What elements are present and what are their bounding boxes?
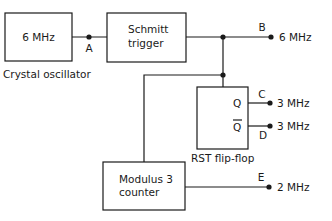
node-d-frequency: 3 MHz [277,120,310,132]
node-d-dot [267,123,272,128]
schmitt-trigger-block: Schmitt trigger [107,13,186,62]
frequency-divider-diagram: 6 MHz Crystal oscillator Schmitt trigger… [0,0,332,221]
node-b: B 6 MHz [258,21,312,43]
node-a-label: A [85,42,93,54]
node-d: D 3 MHz [259,120,310,141]
counter-label-line1: Modulus 3 [119,173,173,185]
node-b-frequency: 6 MHz [279,31,312,43]
node-e: E 2 MHz [258,171,310,193]
node-c-label: C [258,88,265,100]
rst-flipflop-block: Q Q RST flip-flop [191,87,255,164]
crystal-oscillator-block: 6 MHz Crystal oscillator [3,13,92,80]
node-b-dot [268,34,273,39]
crystal-oscillator-caption: Crystal oscillator [3,68,92,80]
modulus-counter-block: Modulus 3 counter [103,162,185,210]
qbar-output-label: Q [233,121,241,133]
junction-dot-middle [220,72,225,77]
node-e-dot [266,184,271,189]
node-b-label: B [258,21,265,33]
node-a-dot [86,34,91,39]
node-c: C 3 MHz [258,88,310,109]
node-e-frequency: 2 MHz [277,181,310,193]
node-c-dot [267,100,272,105]
node-c-frequency: 3 MHz [277,97,310,109]
counter-label-line2: counter [119,186,160,198]
schmitt-label-line1: Schmitt [128,23,168,35]
q-output-label: Q [233,97,241,109]
junction-dot-top [220,34,225,39]
schmitt-label-line2: trigger [128,37,164,49]
rst-flipflop-caption: RST flip-flop [191,152,255,164]
crystal-frequency-label: 6 MHz [22,31,55,43]
node-d-label: D [259,129,267,141]
node-e-label: E [258,171,265,183]
